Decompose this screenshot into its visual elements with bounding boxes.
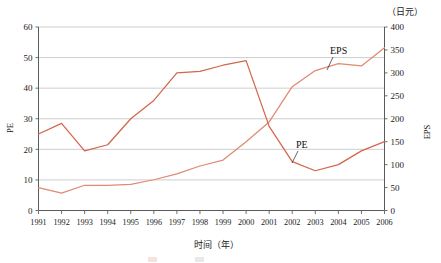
- x-axis-tick-label: 2005: [353, 218, 369, 227]
- right-axis-tick-label: 300: [391, 68, 405, 78]
- x-axis-tick-label: 2006: [376, 218, 392, 227]
- right-axis-tick-label: 250: [391, 91, 405, 101]
- x-axis-tick-label: 2001: [261, 218, 277, 227]
- right-axis-tick-label: 50: [391, 183, 401, 193]
- right-axis-title: EPS: [422, 124, 432, 139]
- x-axis-tick-label: 1999: [215, 218, 231, 227]
- left-axis-tick-label: 0: [28, 206, 33, 216]
- right-axis-tick-label: 150: [391, 137, 405, 147]
- x-axis-tick-label: 1995: [123, 218, 139, 227]
- left-axis-tick-label: 10: [24, 175, 34, 185]
- x-axis-tick-label: 2002: [284, 218, 300, 227]
- right-axis-tick-label: 0: [391, 206, 396, 216]
- x-axis-tick-label: 1998: [192, 218, 208, 227]
- left-axis-tick-label: 60: [24, 22, 34, 32]
- left-axis-tick-label: 40: [24, 83, 34, 93]
- right-axis-tick-label: 200: [391, 114, 405, 124]
- left-axis-title: PE: [5, 123, 15, 133]
- x-axis-tick-label: 2003: [307, 218, 323, 227]
- right-axis-tick-label: 350: [391, 45, 405, 55]
- pe-series-annotation: PE: [296, 139, 308, 150]
- x-axis-tick-label: 2000: [238, 218, 254, 227]
- x-axis-tick-label: 1994: [100, 218, 116, 227]
- x-axis-tick-label: 1996: [146, 218, 162, 227]
- right-axis-tick-label: 100: [391, 160, 405, 170]
- right-axis-tick-label: 400: [391, 22, 405, 32]
- eps-series-annotation: EPS: [330, 45, 347, 56]
- left-axis-tick-label: 30: [24, 114, 34, 124]
- x-axis-tick-label: 1991: [30, 218, 46, 227]
- x-axis-tick-label: 1992: [53, 218, 69, 227]
- x-axis-title: 时间（年）: [194, 239, 239, 250]
- x-axis-tick-label: 1997: [169, 218, 185, 227]
- chart-figure: 0102030405060 050100150200250300350400 1…: [0, 0, 441, 263]
- x-axis-tick-label: 2004: [330, 218, 346, 227]
- left-axis-tick-label: 50: [24, 53, 34, 63]
- left-axis-tick-label: 20: [24, 145, 34, 155]
- right-axis-unit-label: （日元）: [387, 7, 423, 17]
- line-chart-canvas: 0102030405060 050100150200250300350400 1…: [0, 0, 441, 263]
- x-axis-tick-label: 1993: [76, 218, 92, 227]
